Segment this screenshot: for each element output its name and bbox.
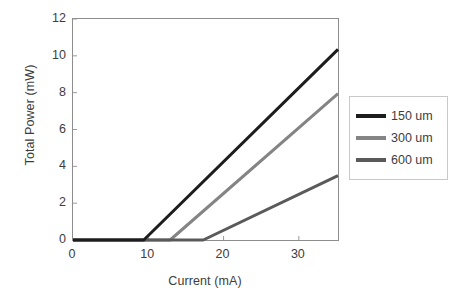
x-tick-label: 30 (278, 248, 318, 261)
x-axis-tick-labels: 0102030 (72, 248, 372, 268)
y-tick-label: 10 (26, 49, 66, 62)
legend-item: 300 um (350, 127, 447, 149)
series-line (73, 94, 338, 240)
x-tick-label: 10 (127, 248, 167, 261)
y-tick-label: 2 (26, 196, 66, 209)
x-tick-label: 20 (203, 248, 243, 261)
legend-item: 600 um (350, 149, 447, 171)
legend-line-swatch (356, 136, 386, 139)
legend-line-swatch (356, 114, 386, 117)
chart-figure: Total Power (mW) 024681012 0102030 Curre… (0, 0, 461, 304)
plot-area (72, 18, 339, 241)
y-tick-label: 6 (26, 123, 66, 136)
legend-line-swatch (356, 158, 386, 161)
legend-label: 300 um (391, 132, 433, 145)
legend-item: 150 um (350, 105, 447, 127)
y-tick-label: 4 (26, 159, 66, 172)
legend-label: 600 um (391, 154, 433, 167)
x-axis-title: Current (mA) (72, 274, 338, 288)
y-tick-label: 0 (26, 233, 66, 246)
series-line (73, 49, 338, 240)
x-tick-label: 0 (52, 248, 92, 261)
chart-legend: 150 um300 um600 um (349, 96, 448, 180)
y-tick-label: 8 (26, 86, 66, 99)
y-tick-label: 12 (26, 12, 66, 25)
legend-label: 150 um (391, 110, 433, 123)
plot-lines (73, 19, 338, 240)
